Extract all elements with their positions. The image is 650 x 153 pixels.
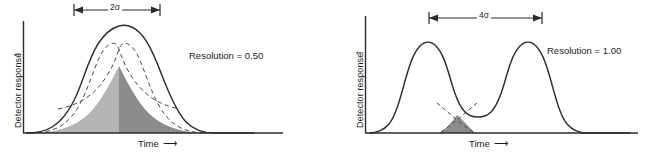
resolution-figure: ↑ Detector response Time⟶ 2σ Resolution … <box>0 0 650 153</box>
sigma-span-arrow-right <box>533 15 542 22</box>
separation-label-left: 2σ <box>108 2 122 12</box>
y-axis-label-right: Detector response <box>355 53 365 128</box>
sigma-span-arrow-left <box>429 15 438 22</box>
overlap-fill-dark <box>119 66 208 133</box>
separation-label-right: 4σ <box>477 10 491 20</box>
x-axis-arrow-right: ⟶ <box>494 138 508 149</box>
y-axis-label-left: Detector response <box>13 53 23 128</box>
x-axis-label-left-text: Time <box>138 138 159 149</box>
x-axis-label-right-text: Time <box>469 138 490 149</box>
sigma-span-arrow-right <box>151 7 160 14</box>
x-axis-label-left: Time⟶ <box>138 138 177 149</box>
chart-panel-left: ↑ Detector response Time⟶ 2σ Resolution … <box>0 0 325 153</box>
resolution-label-right: Resolution = 1.00 <box>547 45 621 56</box>
left-panel-plot <box>0 0 325 153</box>
chart-panel-right: ↑ Detector response Time⟶ 4σ Resolution … <box>325 0 650 153</box>
x-axis-label-right: Time⟶ <box>469 138 508 149</box>
sigma-span-arrow-left <box>74 7 83 14</box>
resolution-label-left: Resolution = 0.50 <box>189 50 263 61</box>
right-panel-plot <box>325 0 650 153</box>
overlap-fill-triangle <box>439 115 475 133</box>
x-axis-arrow-left: ⟶ <box>163 138 177 149</box>
